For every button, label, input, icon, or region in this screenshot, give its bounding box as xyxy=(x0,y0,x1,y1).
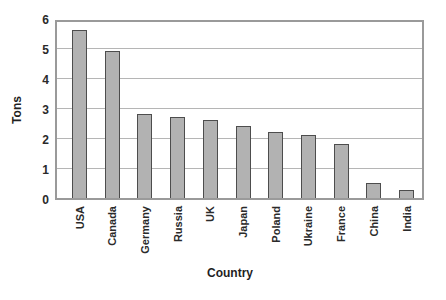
x-tick-label-india: India xyxy=(399,206,415,276)
bar-india xyxy=(399,190,414,198)
bar-germany xyxy=(137,114,152,198)
y-tick-label-3: 3 xyxy=(27,103,49,117)
y-tick-label-5: 5 xyxy=(27,43,49,57)
bar-russia xyxy=(170,117,185,198)
bar-uk xyxy=(203,120,218,198)
x-tick-label-canada: Canada xyxy=(104,206,120,276)
x-tick-label-usa: USA xyxy=(72,206,88,276)
bar-japan xyxy=(236,126,251,198)
y-tick-label-4: 4 xyxy=(27,73,49,87)
y-tick-label-2: 2 xyxy=(27,133,49,147)
y-axis-title: Tons xyxy=(9,60,25,160)
x-tick-label-china: China xyxy=(366,206,382,276)
gridline-y-5 xyxy=(57,48,422,49)
bar-china xyxy=(366,183,381,198)
x-axis-title: Country xyxy=(130,265,330,281)
bar-ukraine xyxy=(301,135,316,198)
bar-poland xyxy=(268,132,283,198)
x-tick-label-france: France xyxy=(333,206,349,276)
y-tick-label-0: 0 xyxy=(27,193,49,207)
bar-usa xyxy=(72,30,87,198)
bar-canada xyxy=(105,51,120,198)
bar-chart-figure: Tons 0123456 USACanadaGermanyRussiaUKJap… xyxy=(0,0,446,300)
plot-area xyxy=(55,20,424,200)
y-tick-label-1: 1 xyxy=(27,163,49,177)
bar-france xyxy=(334,144,349,198)
y-tick-label-6: 6 xyxy=(27,13,49,27)
